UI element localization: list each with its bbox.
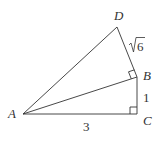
geometry-diagram: A B C D 3 1 6 [0, 0, 163, 141]
length-ac: 3 [83, 119, 90, 134]
label-point-c: C [143, 113, 152, 128]
segment-ab [23, 77, 137, 114]
segment-db [117, 27, 137, 77]
label-point-d: D [113, 8, 124, 23]
right-angle-mark-c [130, 107, 137, 114]
label-point-a: A [7, 106, 16, 121]
length-db-sqrt: 6 [129, 38, 145, 55]
segment-ad [23, 27, 117, 114]
length-db-radicand: 6 [137, 39, 144, 54]
right-angle-mark-b [129, 70, 135, 79]
length-bc: 1 [143, 90, 150, 105]
label-point-b: B [143, 68, 151, 83]
